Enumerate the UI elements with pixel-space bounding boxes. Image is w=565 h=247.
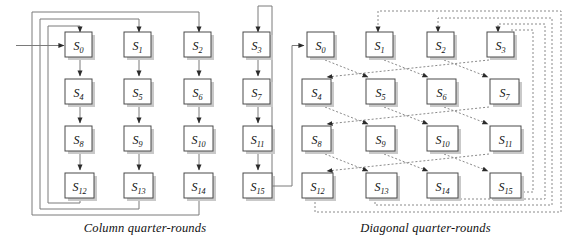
cell-s15: S15: [243, 173, 275, 201]
cell-d0: S0: [307, 32, 337, 60]
cell-s6: S6: [184, 79, 214, 107]
edge-d5-d10: [384, 107, 428, 124]
cell-d7: S7: [490, 79, 522, 107]
edge-d2-d7: [444, 60, 488, 77]
cell-s10: S10: [184, 126, 216, 154]
cell-d12: S12: [302, 173, 336, 201]
cell-s14: S14: [184, 173, 216, 201]
edge-d3-d4: [327, 60, 489, 77]
cell-s8: S8: [65, 126, 95, 154]
cell-d5: S5: [366, 79, 398, 107]
cell-s9: S9: [124, 126, 154, 154]
cell-s2: S2: [184, 32, 214, 60]
edge-entry-to-d0: [272, 46, 304, 187]
cell-d10: S10: [427, 126, 461, 154]
cell-d3: S3: [487, 32, 517, 60]
edge-s14-to-s2-feedback: [32, 12, 199, 215]
edge-d1-d6: [384, 60, 428, 77]
cell-d15: S15: [490, 173, 524, 201]
cell-d11: S11: [490, 126, 524, 154]
diagonal-panel-caption: Diagonal quarter-rounds: [286, 221, 565, 236]
edge-d7-d8: [327, 107, 489, 124]
edge-d6-d11: [444, 107, 488, 124]
figure-canvas: S0 S1 S2 S3 S4: [0, 0, 565, 247]
edge-d10-d15: [444, 154, 488, 171]
cell-d13: S13: [366, 173, 400, 201]
cell-s3: S3: [243, 32, 273, 60]
cell-s12: S12: [65, 173, 97, 201]
edge-d13-to-d2-feedback: [375, 18, 552, 205]
edge-d4-d9: [325, 107, 368, 124]
edge-d0-d9: [325, 60, 368, 77]
diagonal-panel-cells: S0 S1 S2 S3 S4: [302, 32, 524, 201]
cell-s7: S7: [243, 79, 273, 107]
cell-s5: S5: [124, 79, 154, 107]
edge-d8-d13: [325, 154, 368, 171]
cell-s11: S11: [243, 126, 275, 154]
edge-d11-d12: [327, 154, 489, 171]
cell-s13: S13: [124, 173, 156, 201]
cell-d6: S6: [427, 79, 459, 107]
cell-d9: S9: [366, 126, 398, 154]
cell-s0: S0: [65, 32, 95, 60]
edge-d9-d14: [384, 154, 428, 171]
cell-d4: S4: [302, 79, 334, 107]
cell-d2: S2: [427, 32, 457, 60]
cell-d14: S14: [427, 173, 461, 201]
quarter-round-diagram: S0 S1 S2 S3 S4: [0, 0, 565, 247]
cell-d8: S8: [302, 126, 334, 154]
column-panel-caption: Column quarter-rounds: [0, 221, 290, 236]
cell-s4: S4: [65, 79, 95, 107]
cell-s1: S1: [124, 32, 154, 60]
column-panel-cells: S0 S1 S2 S3 S4: [65, 32, 275, 201]
cell-d1: S1: [366, 32, 396, 60]
